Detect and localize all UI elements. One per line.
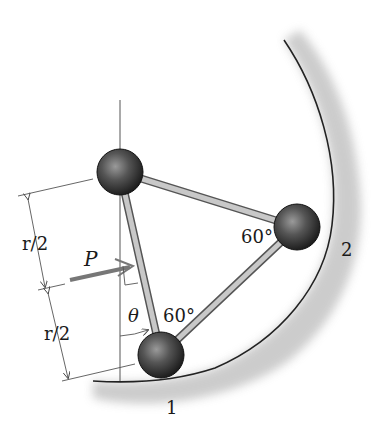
- theta-arc: [120, 330, 148, 336]
- diagram-canvas: P θ 60° 60° r/2 r/2 1 2: [0, 0, 379, 438]
- rods: [120, 172, 297, 355]
- contact-label-1: 1: [166, 397, 177, 418]
- angle-label-right: 60°: [241, 226, 273, 247]
- force-label-p: P: [83, 247, 98, 271]
- dimension-label-lower: r/2: [44, 323, 70, 344]
- right-ball: [274, 204, 320, 250]
- bottom-ball: [138, 332, 184, 378]
- dimension-label-upper: r/2: [22, 233, 48, 254]
- theta-label: θ: [128, 305, 139, 326]
- top-ball: [97, 149, 143, 195]
- angle-label-bottom: 60°: [163, 305, 195, 326]
- contact-label-2: 2: [341, 239, 352, 260]
